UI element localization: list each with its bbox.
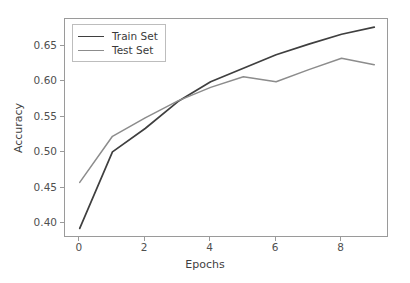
y-tick-label: 0.65: [34, 40, 57, 51]
legend-item-test-set: Test Set: [78, 43, 158, 57]
legend-swatch-train-set: [78, 36, 104, 37]
legend-label-train-set: Train Set: [112, 31, 158, 42]
plot-area: Train Set Test Set: [64, 18, 388, 237]
series-line-test-set: [80, 58, 375, 182]
y-tick-label: 0.60: [34, 75, 57, 86]
x-axis-title: Epochs: [0, 259, 410, 270]
x-tick-label: 0: [75, 242, 82, 253]
x-tick-label: 2: [141, 242, 148, 253]
y-tick-label: 0.45: [34, 182, 57, 193]
legend-label-test-set: Test Set: [112, 45, 153, 56]
x-tick-label: 8: [337, 242, 344, 253]
y-tick-label: 0.40: [34, 217, 57, 228]
x-tick-label: 4: [206, 242, 213, 253]
legend-item-train-set: Train Set: [78, 29, 158, 43]
chart-figure: Accuracy 0.400.450.500.550.600.65 02468 …: [0, 0, 410, 283]
x-tick-label: 6: [272, 242, 279, 253]
y-axis-title: Accuracy: [13, 102, 24, 152]
legend-swatch-test-set: [78, 50, 104, 51]
y-tick-label: 0.50: [34, 146, 57, 157]
y-tick-label: 0.55: [34, 111, 57, 122]
y-axis-title-container: Accuracy: [22, 18, 36, 237]
legend: Train Set Test Set: [72, 24, 166, 62]
